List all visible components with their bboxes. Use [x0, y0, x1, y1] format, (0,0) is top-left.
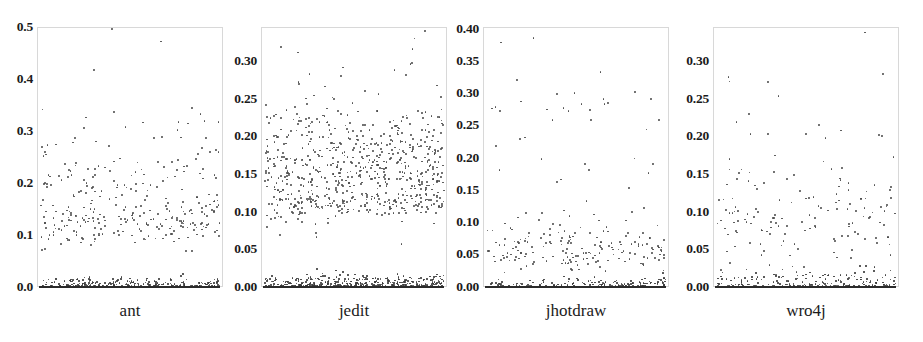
data-point	[301, 134, 303, 136]
data-point	[45, 227, 47, 229]
data-point	[359, 170, 361, 172]
data-point	[849, 203, 851, 205]
data-point	[379, 203, 381, 205]
data-point	[403, 281, 405, 283]
data-point	[342, 185, 344, 187]
data-point	[545, 242, 547, 244]
data-point	[285, 221, 287, 223]
data-point	[333, 200, 335, 202]
data-point	[269, 278, 271, 280]
data-point	[430, 199, 432, 201]
data-point	[161, 136, 163, 138]
data-point	[786, 280, 788, 282]
data-point	[643, 282, 645, 284]
data-point	[595, 261, 597, 263]
data-point	[309, 173, 311, 175]
data-point	[589, 109, 591, 111]
data-point	[290, 130, 292, 132]
data-point	[297, 201, 299, 203]
data-point	[305, 281, 307, 283]
data-point	[599, 266, 601, 268]
data-point	[75, 215, 77, 217]
panel-title-jhotdraw: jhotdraw	[506, 301, 646, 321]
data-point	[94, 238, 96, 240]
data-point	[500, 259, 502, 261]
data-point	[330, 133, 332, 135]
data-point	[543, 233, 545, 235]
data-point	[377, 182, 379, 184]
data-point	[389, 121, 391, 123]
data-point	[273, 283, 275, 285]
data-point	[98, 222, 100, 224]
data-point	[495, 282, 497, 284]
data-point	[628, 187, 630, 189]
data-point	[412, 148, 414, 150]
data-point	[170, 279, 172, 281]
data-point	[364, 124, 366, 126]
data-point	[390, 157, 392, 159]
data-point	[549, 241, 551, 243]
data-point	[330, 283, 332, 285]
data-point	[503, 257, 505, 259]
data-point	[857, 233, 859, 235]
data-point	[90, 244, 92, 246]
data-point	[180, 275, 182, 277]
data-point	[273, 196, 275, 198]
zero-baseline-ant	[39, 286, 220, 288]
data-point	[58, 228, 60, 230]
data-point	[559, 224, 561, 226]
data-point	[840, 281, 842, 283]
data-point	[524, 240, 526, 242]
data-point	[376, 110, 378, 112]
data-point	[339, 274, 341, 276]
data-point	[60, 243, 62, 245]
data-point	[166, 208, 168, 210]
data-point	[419, 194, 421, 196]
data-point	[215, 149, 217, 151]
data-point	[135, 183, 137, 185]
data-point	[552, 223, 554, 225]
data-point	[786, 225, 788, 227]
data-point	[333, 98, 335, 100]
data-point	[434, 152, 436, 154]
data-point	[311, 131, 313, 133]
data-point	[357, 282, 359, 284]
data-point	[515, 256, 517, 258]
data-point	[562, 250, 564, 252]
data-point	[808, 197, 810, 199]
data-point	[264, 282, 266, 284]
data-point	[340, 168, 342, 170]
data-point	[176, 217, 178, 219]
data-point	[420, 197, 422, 199]
data-point	[332, 157, 334, 159]
data-point	[387, 279, 389, 281]
data-point	[121, 194, 123, 196]
data-point	[299, 211, 301, 213]
data-point	[364, 90, 366, 92]
data-point	[274, 165, 276, 167]
data-point	[399, 171, 401, 173]
data-point	[402, 194, 404, 196]
data-point	[115, 204, 117, 206]
data-point	[336, 276, 338, 278]
data-point	[409, 123, 411, 125]
data-point	[335, 180, 337, 182]
data-point	[767, 81, 769, 83]
data-point	[384, 178, 386, 180]
data-point	[567, 242, 569, 244]
data-point	[409, 177, 411, 179]
data-point	[191, 250, 193, 252]
ytick-label-ant-2: 0.3	[0, 123, 33, 139]
data-point	[434, 161, 436, 163]
data-point	[426, 278, 428, 280]
data-point	[349, 138, 351, 140]
data-point	[311, 121, 313, 123]
data-point	[629, 252, 631, 254]
data-point	[843, 283, 845, 285]
data-point	[589, 232, 591, 234]
data-point	[92, 217, 94, 219]
data-point	[337, 281, 339, 283]
data-point	[755, 208, 757, 210]
data-point	[171, 161, 173, 163]
data-point	[360, 183, 362, 185]
